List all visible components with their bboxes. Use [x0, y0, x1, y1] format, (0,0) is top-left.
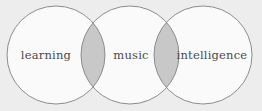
- venn-label-intelligence: intelligence: [177, 48, 248, 62]
- venn-diagram-canvas: learning music intelligence: [0, 0, 262, 111]
- venn-label-learning: learning: [21, 48, 72, 62]
- venn-diagram-figure: learning music intelligence: [0, 0, 262, 111]
- venn-label-music: music: [113, 48, 148, 62]
